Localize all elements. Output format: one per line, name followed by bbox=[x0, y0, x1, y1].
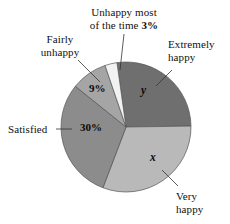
callout-label-fairly-unhappy-line1: Fairly bbox=[26, 33, 94, 46]
callout-label-unhappy-most-line1: Unhappy most bbox=[62, 6, 186, 19]
callout-label-very-happy-line2: happy bbox=[176, 203, 226, 216]
callout-label-fairly-unhappy: Fairly unhappy bbox=[26, 33, 94, 58]
pie-slice-extremely-happy bbox=[117, 62, 191, 127]
callout-label-very-happy: Very happy bbox=[176, 190, 226, 215]
callout-label-extremely-happy-line1: Extremely bbox=[168, 38, 230, 51]
pie-chart-figure: Unhappy most of the time 3% Fairly unhap… bbox=[0, 0, 230, 224]
callout-label-fairly-unhappy-line2: unhappy bbox=[26, 46, 94, 59]
slice-value-fairly-unhappy: 9% bbox=[89, 82, 106, 94]
callout-label-unhappy-most: Unhappy most of the time 3% bbox=[62, 6, 186, 31]
slice-value-satisfied: 30% bbox=[80, 121, 102, 133]
callout-label-satisfied: Satisfied bbox=[8, 123, 60, 136]
callout-label-unhappy-most-percent: 3% bbox=[141, 19, 158, 31]
callout-label-very-happy-line1: Very bbox=[176, 190, 226, 203]
callout-label-extremely-happy-line2: happy bbox=[168, 51, 230, 64]
slice-value-very-happy: x bbox=[150, 151, 156, 163]
callout-label-unhappy-most-line2: of the time 3% bbox=[62, 19, 186, 32]
callout-label-extremely-happy: Extremely happy bbox=[168, 38, 230, 63]
callout-label-unhappy-most-text: of the time bbox=[90, 19, 142, 31]
slice-value-extremely-happy: y bbox=[141, 84, 146, 96]
callout-label-satisfied-line1: Satisfied bbox=[8, 123, 60, 136]
